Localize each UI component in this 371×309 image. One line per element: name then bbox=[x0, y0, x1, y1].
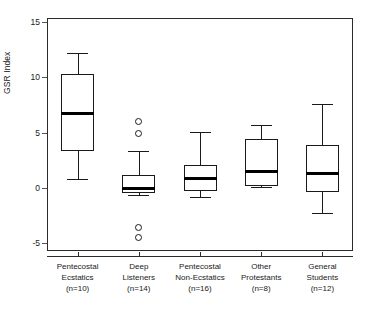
x-axis-category-label: PentecostalNon-Ecstatics(n=16) bbox=[169, 261, 230, 294]
whisker-lower bbox=[322, 192, 323, 213]
whisker-cap-upper bbox=[128, 151, 149, 152]
x-label-line: Pentecostal bbox=[47, 261, 108, 272]
x-label-line: Students bbox=[292, 272, 353, 283]
x-label-line: (n=10) bbox=[47, 283, 108, 294]
x-label-line: Ecstatics bbox=[47, 272, 108, 283]
whisker-cap-upper bbox=[67, 53, 88, 54]
whisker-cap-lower bbox=[128, 195, 149, 196]
boxplot-figure: 151050-5 GSR Index PentecostalEcstatics(… bbox=[0, 0, 371, 309]
median-line bbox=[245, 170, 278, 173]
y-axis-title: GSR Index bbox=[2, 14, 12, 94]
whisker-cap-lower bbox=[67, 179, 88, 180]
x-tick-mark bbox=[200, 252, 201, 257]
x-label-line: (n=12) bbox=[292, 283, 353, 294]
whisker-upper bbox=[200, 132, 201, 165]
whisker-upper bbox=[261, 125, 262, 139]
whisker-lower bbox=[200, 191, 201, 198]
x-label-line: Deep bbox=[108, 261, 169, 272]
whisker-cap-lower bbox=[312, 213, 333, 214]
y-tick-mark bbox=[42, 188, 47, 189]
x-label-line: (n=14) bbox=[108, 283, 169, 294]
x-label-line: Pentecostal bbox=[169, 261, 230, 272]
whisker-cap-upper bbox=[190, 132, 211, 133]
x-label-line: Protestants bbox=[231, 272, 292, 283]
whisker-cap-lower bbox=[251, 187, 272, 188]
x-tick-mark bbox=[261, 252, 262, 257]
x-axis-category-label: PentecostalEcstatics(n=10) bbox=[47, 261, 108, 294]
median-line bbox=[122, 187, 155, 190]
x-label-line: Non-Ecstatics bbox=[169, 272, 230, 283]
whisker-cap-upper bbox=[251, 125, 272, 126]
box-iqr bbox=[306, 145, 339, 193]
box-iqr bbox=[122, 175, 155, 193]
whisker-cap-lower bbox=[190, 197, 211, 198]
median-line bbox=[306, 172, 339, 175]
x-label-line: General bbox=[292, 261, 353, 272]
y-tick-mark bbox=[42, 243, 47, 244]
x-tick-mark bbox=[139, 252, 140, 257]
whisker-upper bbox=[322, 104, 323, 145]
box-iqr bbox=[245, 139, 278, 186]
median-line bbox=[61, 112, 94, 115]
whisker-upper bbox=[78, 53, 79, 74]
x-label-line: Other bbox=[231, 261, 292, 272]
y-axis-title-wrap: GSR Index bbox=[0, 0, 26, 260]
x-tick-mark bbox=[78, 252, 79, 257]
x-axis-category-label: OtherProtestants(n=8) bbox=[231, 261, 292, 294]
median-line bbox=[184, 177, 217, 180]
x-label-line: Listeners bbox=[108, 272, 169, 283]
whisker-lower bbox=[78, 151, 79, 179]
whisker-upper bbox=[139, 151, 140, 175]
y-tick-mark bbox=[42, 77, 47, 78]
whisker-cap-upper bbox=[312, 104, 333, 105]
x-label-line: (n=16) bbox=[169, 283, 230, 294]
x-axis-category-label: DeepListeners(n=14) bbox=[108, 261, 169, 294]
y-tick-mark bbox=[42, 133, 47, 134]
x-tick-mark bbox=[322, 252, 323, 257]
y-tick-mark bbox=[42, 22, 47, 23]
x-axis-category-label: GeneralStudents(n=12) bbox=[292, 261, 353, 294]
x-label-line: (n=8) bbox=[231, 283, 292, 294]
